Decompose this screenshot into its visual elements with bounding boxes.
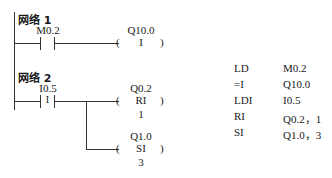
coil-instruction: RI [136,94,147,106]
coil-paren-right: ) [160,36,164,48]
stl-op: LDI [234,94,252,106]
coil-param: 1 [138,108,144,120]
coil-paren-left: ( [116,94,120,106]
contact-address: M0.2 [36,24,60,36]
coil-paren-left: ( [116,142,120,154]
stl-operand: M0.2 [283,62,307,74]
coil-paren-right: ) [160,142,164,154]
stl-op: LD [234,62,249,74]
stl-operand: Q1.0，3 [283,126,321,142]
coil-instruction: SI [136,142,146,154]
coil-paren-left: ( [116,36,120,48]
coil-param: 3 [138,156,144,168]
coil-paren-right: ) [160,94,164,106]
stl-operand: Q10.0 [283,78,310,90]
stl-operand: I0.5 [283,94,300,106]
stl-op: =I [234,78,244,90]
stl-op: SI [234,126,244,138]
immediate-contact-symbol: I [46,94,49,105]
stl-operand: Q0.2，1 [283,110,321,126]
coil-address: Q1.0 [130,130,152,142]
coil-instruction: I [139,36,143,48]
stl-op: RI [234,110,245,122]
coil-address: Q0.2 [130,82,152,94]
coil-address: Q10.0 [127,24,154,36]
contact-address: I0.5 [39,82,56,94]
